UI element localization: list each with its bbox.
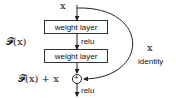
sum-label: 𝓕(x) + x — [18, 73, 59, 85]
sum-node-icon: + — [74, 73, 79, 82]
relu-label-2: relu — [81, 86, 94, 95]
relu-label-1: relu — [81, 37, 94, 46]
weight-layer-1: weight layer — [44, 20, 108, 34]
identity-label: identity — [138, 57, 163, 66]
shortcut-x-label: x — [147, 42, 153, 53]
function-label: 𝓕(x) — [6, 36, 26, 48]
weight-layer-2: weight layer — [44, 49, 108, 63]
input-x-label: x — [60, 0, 66, 11]
